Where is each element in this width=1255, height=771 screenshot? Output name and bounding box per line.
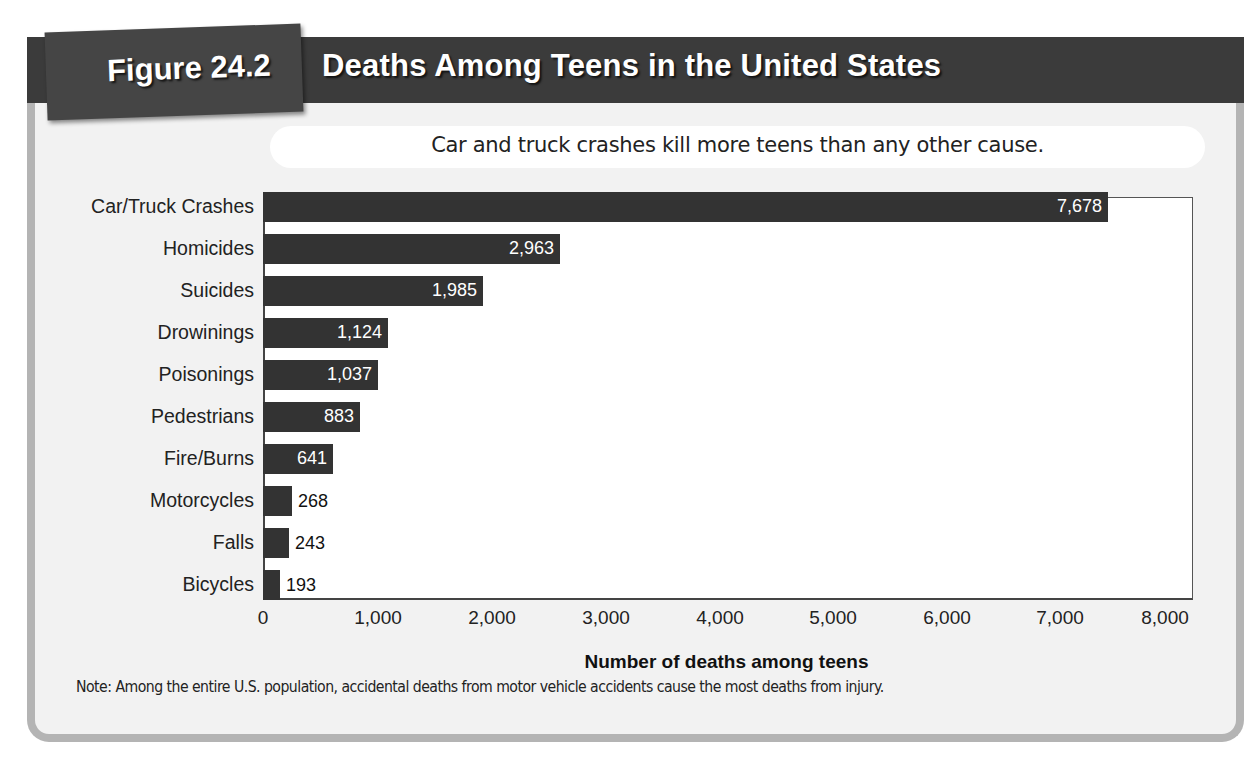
bar: 641	[263, 444, 333, 474]
value-label: 883	[324, 406, 354, 427]
x-tick-label: 6,000	[923, 607, 971, 629]
value-label: 193	[286, 575, 316, 596]
category-label: Car/Truck Crashes	[14, 195, 254, 218]
category-label: Suicides	[14, 279, 254, 302]
bar: 1,985	[263, 276, 483, 306]
x-tick-label: 8,000	[1141, 607, 1189, 629]
bar: 883	[263, 402, 360, 432]
category-label: Pedestrians	[14, 405, 254, 428]
x-tick-label: 3,000	[582, 607, 630, 629]
category-label: Falls	[14, 531, 254, 554]
value-label: 1,037	[327, 364, 372, 385]
category-label: Bicycles	[14, 573, 254, 596]
value-label: 641	[297, 448, 327, 469]
value-label: 7,678	[1057, 196, 1102, 217]
x-tick-label: 1,000	[354, 607, 402, 629]
bar	[263, 486, 292, 516]
category-label: Fire/Burns	[14, 447, 254, 470]
chart-subtitle: Car and truck crashes kill more teens th…	[270, 133, 1205, 157]
x-axis-label: Number of deaths among teens	[263, 651, 1190, 673]
x-tick-label: 5,000	[809, 607, 857, 629]
category-label: Motorcycles	[14, 489, 254, 512]
category-label: Homicides	[14, 237, 254, 260]
value-label: 2,963	[509, 238, 554, 259]
x-tick-label: 4,000	[696, 607, 744, 629]
chart-title: Deaths Among Teens in the United States	[322, 48, 941, 84]
bar: 1,124	[263, 318, 388, 348]
bar: 1,037	[263, 360, 378, 390]
category-label: Drowinings	[14, 321, 254, 344]
x-tick-label: 7,000	[1036, 607, 1084, 629]
x-tick-label: 0	[258, 607, 269, 629]
footnote: Note: Among the entire U.S. population, …	[76, 677, 884, 696]
bar	[263, 570, 280, 600]
bar	[263, 528, 289, 558]
bar: 2,963	[263, 234, 560, 264]
value-label: 243	[295, 533, 325, 554]
figure-number-tab: Figure 24.2	[45, 24, 304, 121]
value-label: 268	[298, 491, 328, 512]
x-tick-label: 2,000	[468, 607, 516, 629]
value-label: 1,124	[337, 322, 382, 343]
bar: 7,678	[263, 192, 1108, 222]
category-label: Poisonings	[14, 363, 254, 386]
figure-number: Figure 24.2	[106, 48, 271, 90]
value-label: 1,985	[432, 280, 477, 301]
